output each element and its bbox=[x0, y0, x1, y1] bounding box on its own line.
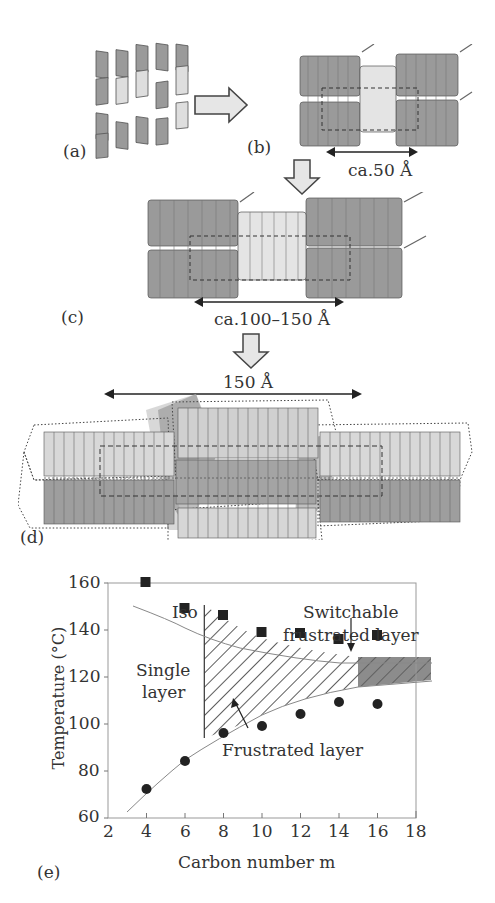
panel-e-label: (e) bbox=[37, 862, 60, 882]
down-arrow-icon bbox=[282, 158, 322, 196]
y-axis-label: Temperature (°C) bbox=[49, 630, 68, 770]
region-label-switchable-2: frustrated layer bbox=[283, 625, 419, 645]
x-ticks: 2 4 6 8 10 12 14 16 18 bbox=[0, 821, 495, 843]
y-tick-80: 80 bbox=[78, 760, 100, 780]
dimension-arrow-c bbox=[194, 296, 344, 308]
dimension-label-b: ca.50 Å bbox=[348, 160, 412, 180]
panel-d-label: (d) bbox=[20, 527, 44, 547]
y-tick-120: 120 bbox=[68, 666, 100, 686]
panel-b-domain-diagram bbox=[296, 44, 476, 154]
panel-b-label: (b) bbox=[247, 137, 271, 157]
y-tick-100: 100 bbox=[68, 713, 100, 733]
y-tick-140: 140 bbox=[68, 619, 100, 639]
x-axis-label: Carbon number m bbox=[178, 852, 335, 872]
y-tick-160: 160 bbox=[68, 572, 100, 592]
panel-d-frustrated-domain-diagram bbox=[18, 380, 478, 540]
dimension-label-c: ca.100–150 Å bbox=[214, 309, 330, 329]
region-label-frustrated: Frustrated layer bbox=[222, 740, 363, 760]
panel-c-label: (c) bbox=[61, 307, 84, 327]
panel-c-domain-diagram bbox=[146, 192, 431, 302]
region-label-single-1: Single bbox=[136, 660, 190, 680]
region-label-switchable-1: Switchable bbox=[303, 602, 398, 622]
panel-a-label: (a) bbox=[63, 141, 86, 161]
region-label-single-2: layer bbox=[142, 682, 185, 702]
panel-a-rod-stack bbox=[90, 30, 200, 165]
x-axis-label-text: Carbon number m bbox=[178, 852, 335, 872]
switchable-region bbox=[358, 657, 431, 687]
down-arrow-icon bbox=[230, 332, 272, 370]
right-arrow-icon bbox=[193, 86, 249, 124]
dimension-arrow-b bbox=[326, 146, 418, 158]
region-label-iso: Iso bbox=[172, 602, 198, 622]
